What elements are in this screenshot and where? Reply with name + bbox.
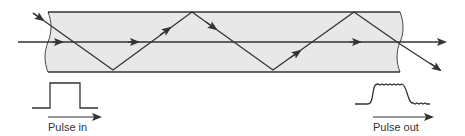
arrow-icon <box>430 63 440 70</box>
pulse-in-waveform <box>32 83 100 117</box>
pulse-out-waveform <box>355 84 432 117</box>
pulse-out-label: Pulse out <box>373 121 419 133</box>
optical-fiber-diagram <box>0 0 465 136</box>
arrow-icon <box>33 13 43 20</box>
pulse-in-label: Pulse in <box>48 121 87 133</box>
